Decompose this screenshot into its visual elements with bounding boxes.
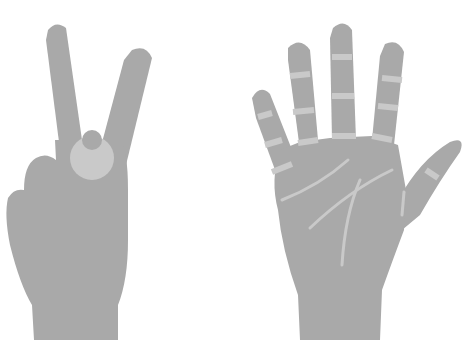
illustration: [0, 0, 465, 354]
peace-sign-hand: [6, 24, 152, 340]
open-palm-hand: [252, 23, 462, 340]
